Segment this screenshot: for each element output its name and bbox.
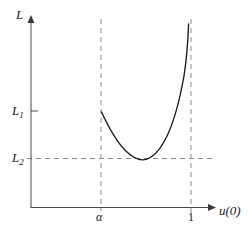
curve-l-of-u	[102, 24, 189, 160]
y-tick-label-l1-subscript: 1	[19, 110, 24, 120]
y-tick-label-l2-subscript: 2	[19, 157, 24, 167]
x-axis-label: u(0)	[219, 204, 241, 217]
x-tick-label-one: 1	[188, 211, 194, 223]
y-axis-label: L	[16, 8, 23, 21]
plot-canvas	[0, 0, 251, 239]
y-tick-label-l1: L1	[12, 104, 24, 117]
x-axis-arrow-icon	[208, 204, 216, 211]
y-tick-label-l2: L2	[12, 151, 24, 164]
figure-container: L L1 L2 α 1 u(0)	[0, 0, 251, 239]
y-axis-arrow-icon	[28, 15, 35, 23]
x-tick-label-alpha: α	[96, 211, 102, 223]
